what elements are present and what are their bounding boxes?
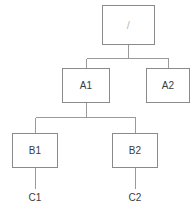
node-a1[interactable]: A1 bbox=[62, 68, 110, 103]
tree-diagram-canvas: / A1 A2 B1 B2 C1 C2 bbox=[0, 0, 196, 214]
node-b1-label: B1 bbox=[29, 146, 42, 156]
node-a1-label: A1 bbox=[80, 81, 93, 91]
node-a2[interactable]: A2 bbox=[146, 68, 190, 103]
node-b1[interactable]: B1 bbox=[12, 133, 58, 168]
tree-connectors bbox=[0, 0, 196, 214]
node-a2-label: A2 bbox=[162, 81, 175, 91]
node-c1-label: C1 bbox=[28, 193, 41, 203]
node-root-label: / bbox=[127, 20, 130, 31]
node-b2[interactable]: B2 bbox=[112, 133, 158, 168]
node-b2-label: B2 bbox=[129, 146, 142, 156]
node-root[interactable]: / bbox=[102, 5, 155, 45]
node-c2-label: C2 bbox=[128, 193, 141, 203]
